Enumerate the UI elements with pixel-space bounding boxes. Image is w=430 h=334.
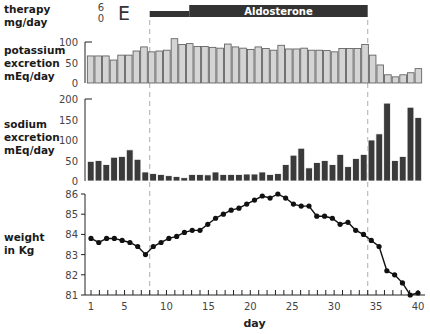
potassium-bar <box>118 55 125 83</box>
potassium-bar <box>87 56 94 83</box>
day-tick-label: 5 <box>121 301 127 312</box>
weight-point <box>345 220 350 225</box>
weight-point <box>252 197 257 202</box>
potassium-bar <box>392 77 399 83</box>
sodium-ytick: 0 <box>72 176 78 187</box>
sodium-bar <box>197 174 204 181</box>
potassium-bar <box>415 69 422 83</box>
weight-ytick: 81 <box>65 290 78 301</box>
sodium-bar <box>181 178 188 181</box>
day-tick-label: 25 <box>286 301 299 312</box>
potassium-bar <box>240 48 247 83</box>
potassium-bar <box>125 55 132 83</box>
sodium-bar <box>337 154 344 181</box>
potassium-bar <box>316 50 323 83</box>
weight-point <box>314 214 319 219</box>
weight-point <box>229 208 234 213</box>
potassium-bar <box>385 75 392 83</box>
potassium-bar <box>324 51 331 83</box>
potassium-bar <box>148 52 155 83</box>
weight-point <box>338 222 343 227</box>
weight-point <box>244 202 249 207</box>
potassium-bar <box>293 49 300 83</box>
weight-point <box>283 195 288 200</box>
weight-point <box>213 216 218 221</box>
potassium-bar <box>339 49 346 83</box>
sodium-bar <box>111 157 118 181</box>
sodium-bar <box>158 174 165 181</box>
sodium-bar <box>306 168 313 181</box>
weight-point <box>361 232 366 237</box>
sodium-bar <box>384 103 391 181</box>
weight-point <box>174 234 179 239</box>
sodium-bar <box>236 174 243 181</box>
weight-point <box>127 240 132 245</box>
potassium-bar <box>377 65 384 83</box>
potassium-bar <box>141 47 148 83</box>
day-tick-label: 10 <box>160 301 173 312</box>
potassium-bar <box>110 60 117 83</box>
weight-point <box>369 238 374 243</box>
sodium-bar <box>267 174 274 181</box>
sodium-bar <box>103 165 110 181</box>
potassium-bar <box>278 45 285 83</box>
sodium-bar <box>290 155 297 181</box>
potassium-bar <box>270 50 277 83</box>
potassium-bar <box>179 44 186 83</box>
sodium-ytick: 150 <box>59 115 78 126</box>
sodium-ytick: 100 <box>59 135 78 146</box>
weight-point <box>166 236 171 241</box>
potassium-bar <box>354 49 361 83</box>
weight-point <box>330 216 335 221</box>
sodium-bar <box>321 161 328 182</box>
weight-point <box>135 244 140 249</box>
sodium-bar <box>376 134 383 181</box>
day-tick-label: 1 <box>88 301 94 312</box>
sodium-ytick: 50 <box>65 156 78 167</box>
potassium-bar <box>362 44 369 83</box>
weight-point <box>275 191 280 196</box>
sodium-bar <box>134 159 141 181</box>
weight-point <box>143 252 148 257</box>
x-axis-label: day <box>243 317 265 330</box>
potassium-bar <box>247 49 254 83</box>
sodium-bar <box>360 154 367 181</box>
potassium-ytick: 100 <box>59 37 78 48</box>
weight-point <box>151 244 156 249</box>
potassium-bar <box>308 50 315 83</box>
sodium-bar <box>204 175 211 181</box>
potassium-ytick: 50 <box>65 58 78 69</box>
potassium-bar <box>225 44 232 83</box>
potassium-bar <box>400 75 407 83</box>
sodium-bar <box>142 172 149 181</box>
weight-ytick: 86 <box>65 189 78 200</box>
day-tick-label: 30 <box>328 301 341 312</box>
day-tick-label: 35 <box>370 301 383 312</box>
potassium-bar <box>301 48 308 83</box>
sodium-bar <box>352 158 359 181</box>
potassium-bar <box>202 47 209 83</box>
sodium-bar <box>345 167 352 181</box>
weight-point <box>158 240 163 245</box>
potassium-bar <box>186 44 193 83</box>
sodium-bar <box>150 174 157 181</box>
therapy-bar-low <box>150 11 190 17</box>
sodium-bar <box>228 174 235 181</box>
sodium-bar <box>212 172 219 181</box>
weight-point <box>291 202 296 207</box>
weight-ytick: 82 <box>65 270 78 281</box>
sodium-bar <box>95 161 102 182</box>
weight-point <box>392 272 397 277</box>
weight-point <box>104 236 109 241</box>
potassium-bar <box>171 39 178 83</box>
potassium-bar <box>95 56 102 83</box>
therapy-label: Aldosterone <box>244 6 313 17</box>
sodium-bar <box>259 172 266 181</box>
weight-ytick: 85 <box>65 209 78 220</box>
potassium-bar <box>217 48 224 83</box>
potassium-bar <box>407 73 414 83</box>
weight-point <box>400 280 405 285</box>
potassium-bar <box>103 56 110 83</box>
weight-point <box>353 228 358 233</box>
potassium-bar <box>194 47 201 83</box>
